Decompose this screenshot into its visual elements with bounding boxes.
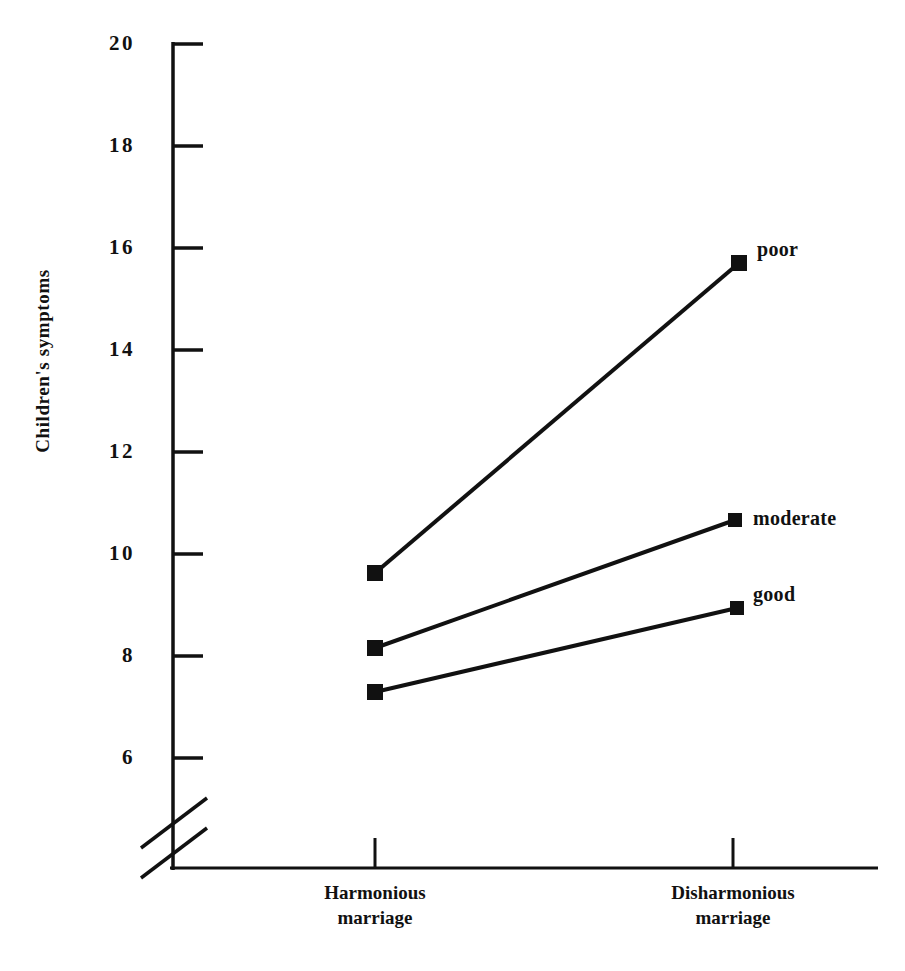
- y-tick-label-12: 12: [75, 439, 135, 464]
- series-line-moderate: [375, 520, 735, 648]
- data-point-good-harmonious: [367, 684, 383, 700]
- data-point-moderate-harmonious: [367, 640, 383, 656]
- line-chart-canvas: [0, 0, 905, 971]
- y-tick-label-18: 18: [75, 133, 135, 158]
- x-category-label-disharmonious: Disharmonious marriage: [618, 880, 848, 930]
- y-axis-title: Children's symptoms: [32, 231, 54, 491]
- data-point-poor-disharmonious: [731, 255, 747, 271]
- y-tick-label-14: 14: [75, 337, 135, 362]
- x-category-disharmonious-line1: Disharmonious: [618, 880, 848, 905]
- series-label-poor: poor: [757, 238, 798, 261]
- x-category-harmonious-line1: Harmonious: [260, 880, 490, 905]
- series-label-moderate: moderate: [753, 507, 836, 530]
- x-category-disharmonious-line2: marriage: [618, 905, 848, 930]
- y-tick-label-20: 20: [75, 31, 135, 56]
- chart-figure: Children's symptoms 20 18 16 14 12 10 8 …: [0, 0, 905, 971]
- x-category-label-harmonious: Harmonious marriage: [260, 880, 490, 930]
- y-tick-label-16: 16: [75, 235, 135, 260]
- data-point-good-disharmonious: [730, 601, 744, 615]
- data-point-moderate-disharmonious: [728, 513, 742, 527]
- y-tick-label-10: 10: [75, 541, 135, 566]
- series-line-good: [375, 608, 737, 692]
- series-line-poor: [375, 263, 739, 573]
- data-point-poor-harmonious: [367, 565, 383, 581]
- y-tick-label-6: 6: [75, 745, 135, 770]
- series-label-good: good: [753, 583, 795, 606]
- x-category-harmonious-line2: marriage: [260, 905, 490, 930]
- y-tick-label-8: 8: [75, 643, 135, 668]
